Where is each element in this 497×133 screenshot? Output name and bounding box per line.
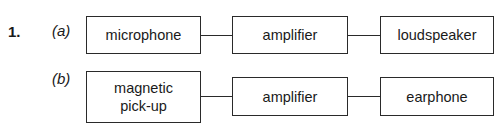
block-microphone: microphone [86, 16, 201, 54]
connector-line [348, 96, 380, 97]
part-a-label: (a) [52, 22, 70, 39]
block-label: amplifier [263, 26, 318, 44]
block-label: loudspeaker [398, 26, 477, 44]
block-amplifier: amplifier [232, 16, 348, 54]
block-earphone: earphone [380, 77, 494, 116]
connector-line [201, 96, 232, 97]
part-b-label: (b) [52, 70, 70, 87]
block-magnetic-pickup: magnetic pick-up [86, 71, 201, 123]
block-loudspeaker: loudspeaker [380, 16, 494, 54]
block-label: magnetic pick-up [101, 79, 186, 115]
block-label: microphone [106, 26, 182, 44]
question-number: 1. [8, 23, 21, 40]
block-amplifier: amplifier [232, 77, 348, 116]
connector-line [348, 35, 380, 36]
connector-line [201, 35, 232, 36]
block-label: amplifier [263, 88, 318, 106]
block-label: earphone [406, 88, 467, 106]
